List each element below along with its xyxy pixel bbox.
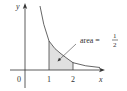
- x-tick-label-2: 2: [71, 75, 75, 84]
- annotation-text: area =: [80, 36, 100, 45]
- annotation-pointer: [60, 44, 76, 59]
- area-under-curve-diagram: y x 0 1 2 area = 1 2: [0, 0, 127, 91]
- y-axis-label: y: [15, 2, 20, 11]
- x-axis-label: x: [98, 75, 103, 84]
- annotation-fraction-numerator: 1: [113, 32, 117, 40]
- annotation-fraction-denominator: 2: [113, 41, 117, 49]
- x-tick-label-1: 1: [47, 75, 51, 84]
- origin-label: 0: [17, 75, 21, 84]
